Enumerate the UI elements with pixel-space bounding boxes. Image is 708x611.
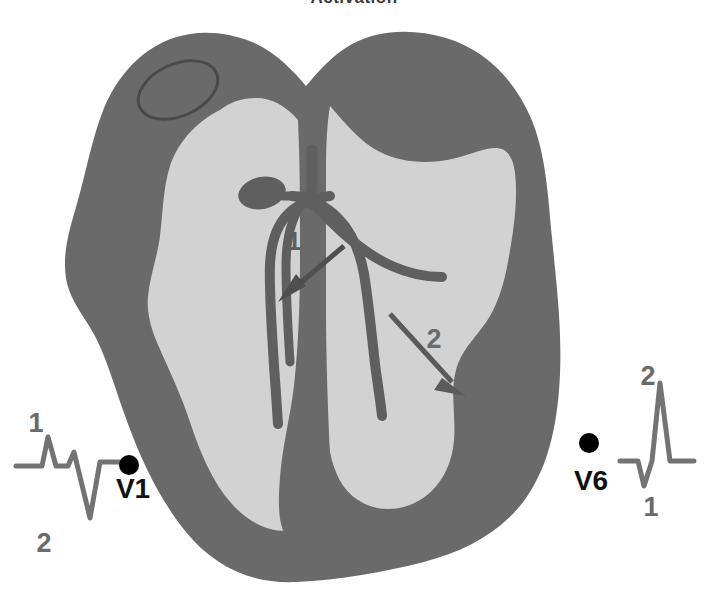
ecg-v1-deflection-2-label: 2 xyxy=(36,528,51,558)
ecg-v6-lead-label: V6 xyxy=(574,465,608,496)
ecg-v1-group: 1 2 V1 xyxy=(16,408,150,558)
cardiac-diagram-svg: 1 2 1 2 V1 2 1 V6 xyxy=(0,0,708,611)
electrode-dot-v6 xyxy=(579,433,599,453)
ecg-v1-deflection-1-label: 1 xyxy=(28,408,43,438)
ecg-v6-group: 2 1 V6 xyxy=(574,361,694,522)
ecg-v6-deflection-2-label: 2 xyxy=(640,361,655,391)
arrow-2-label: 2 xyxy=(426,324,441,354)
arrow-1-label: 1 xyxy=(287,226,301,256)
electrode-dot-v1 xyxy=(119,455,139,475)
ecg-v6-trace xyxy=(620,383,694,486)
ecg-v1-trace xyxy=(16,437,120,518)
ecg-v1-lead-label: V1 xyxy=(116,473,150,504)
ecg-v6-deflection-1-label: 1 xyxy=(643,492,658,522)
figure-canvas: Activation xyxy=(0,0,708,611)
